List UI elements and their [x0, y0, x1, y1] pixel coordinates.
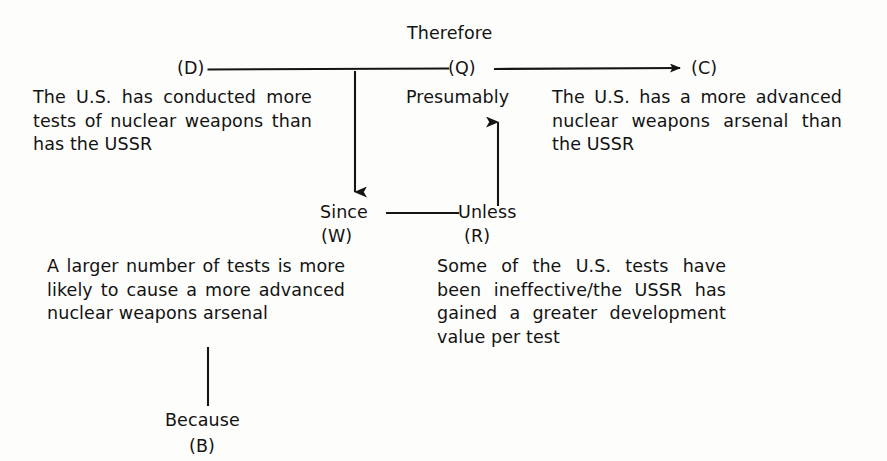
- line-data-to-qualifier: [208, 69, 450, 70]
- node-label-q: (Q): [448, 58, 476, 78]
- statement-warrant: A larger number of tests is more likely …: [47, 255, 345, 326]
- node-label-d: (D): [177, 58, 204, 78]
- statement-data: The U.S. has conducted more tests of nuc…: [33, 86, 312, 157]
- node-label-r: (R): [464, 226, 490, 246]
- node-label-w: (W): [321, 226, 352, 246]
- statement-claim: The U.S. has a more advanced nuclear wea…: [552, 86, 842, 157]
- statement-rebuttal: Some of the U.S. tests have been ineffec…: [437, 255, 726, 349]
- because-label: Because: [165, 410, 240, 430]
- arrow-qualifier-to-claim: [494, 68, 680, 69]
- therefore-label: Therefore: [407, 22, 492, 46]
- connector-lines-layer: [0, 0, 887, 461]
- unless-label: Unless: [458, 202, 516, 222]
- presumably-label: Presumably: [406, 86, 509, 110]
- toulmin-argument-diagram: Therefore (D) (Q) (C) The U.S. has condu…: [0, 0, 887, 461]
- node-label-b: (B): [189, 436, 215, 456]
- node-label-c: (C): [691, 58, 717, 78]
- since-label: Since: [320, 202, 368, 222]
